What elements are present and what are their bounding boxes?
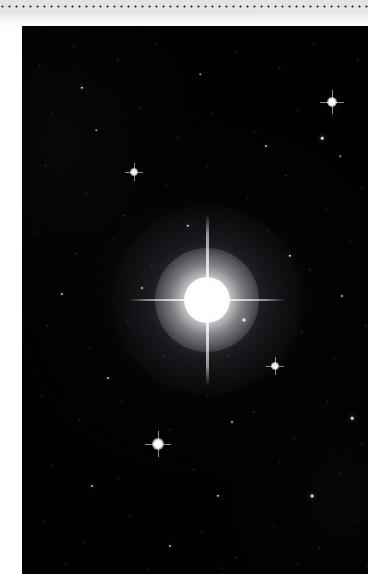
perforation-dots bbox=[1, 5, 368, 9]
perforated-binding-edge bbox=[0, 0, 368, 26]
night-sky-photograph bbox=[22, 26, 368, 574]
page-root bbox=[0, 0, 368, 574]
paper-margin-left bbox=[0, 26, 22, 574]
faint-star-speckle-layer-4 bbox=[22, 26, 368, 574]
